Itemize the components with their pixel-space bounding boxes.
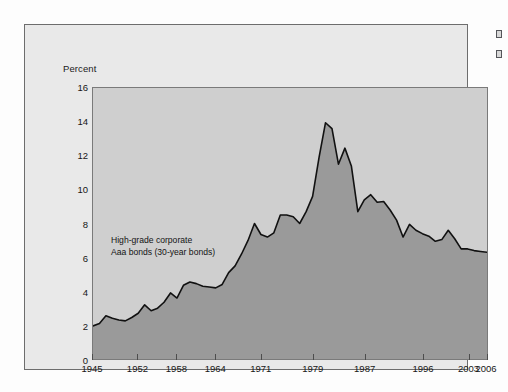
figure-frame: Percent 0246810121416 High-grade corpora…	[24, 24, 468, 370]
x-tick-mark	[423, 354, 424, 360]
y-tick-label: 4	[60, 286, 88, 297]
x-tick-mark	[365, 354, 366, 360]
cut-off-mark-top	[496, 30, 502, 38]
series-annotation: High-grade corporate Aaa bonds (30-year …	[111, 235, 215, 258]
y-tick-label: 6	[60, 252, 88, 263]
plot-area	[92, 87, 488, 360]
x-tick-label: 1996	[413, 363, 434, 374]
x-tick-label: 1945	[81, 363, 102, 374]
series-annotation-line-1: High-grade corporate	[111, 235, 215, 247]
x-tick-label: 1958	[166, 363, 187, 374]
y-tick-label: 16	[60, 82, 88, 93]
area-chart-svg	[93, 88, 487, 359]
x-tick-mark	[261, 354, 262, 360]
x-axis-tick-marks	[92, 354, 488, 361]
y-axis-tick-labels: 0246810121416	[56, 87, 88, 360]
y-tick-label: 2	[60, 320, 88, 331]
x-tick-mark	[137, 354, 138, 360]
page-edge-marks	[496, 30, 506, 64]
x-tick-label: 1964	[205, 363, 226, 374]
x-axis-tick-labels: 1945195219581964197119791987199620032006	[92, 363, 488, 379]
x-tick-label: 1979	[302, 363, 323, 374]
y-tick-label: 8	[60, 218, 88, 229]
y-tick-label: 12	[60, 150, 88, 161]
series-annotation-line-2: Aaa bonds (30-year bonds)	[111, 247, 215, 259]
x-tick-label: 1987	[354, 363, 375, 374]
x-tick-mark	[215, 354, 216, 360]
y-axis-title: Percent	[63, 63, 96, 74]
x-tick-label: 2006	[475, 363, 496, 374]
x-tick-mark	[313, 354, 314, 360]
x-tick-mark	[176, 354, 177, 360]
x-tick-mark	[487, 354, 488, 360]
x-tick-mark	[92, 354, 93, 360]
y-tick-label: 10	[60, 184, 88, 195]
cut-off-mark-bottom	[496, 50, 502, 58]
x-tick-label: 1971	[250, 363, 271, 374]
y-tick-label: 14	[60, 116, 88, 127]
x-tick-mark	[469, 354, 470, 360]
x-tick-label: 1952	[127, 363, 148, 374]
